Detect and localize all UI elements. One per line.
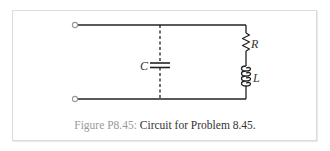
terminal-bottom-icon [72, 96, 77, 101]
inductor-icon [242, 66, 251, 86]
resistor-label: R [250, 37, 259, 51]
capacitor-branch [150, 25, 170, 99]
rl-branch [242, 25, 251, 99]
inductor-label: L [252, 71, 260, 85]
resistor-icon [243, 33, 250, 51]
caption-label: Figure P8.45: [74, 119, 137, 131]
terminal-top-icon [72, 22, 77, 27]
caption-text: Circuit for Problem 8.45. [137, 119, 256, 131]
capacitor-label: C [140, 59, 149, 73]
figure-caption: Figure P8.45: Circuit for Problem 8.45. [0, 119, 330, 131]
